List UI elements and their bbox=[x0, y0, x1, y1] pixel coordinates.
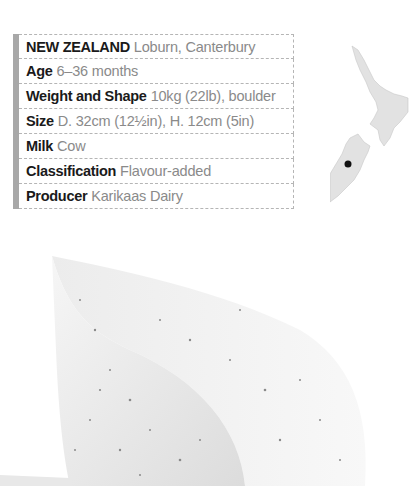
row-value: Flavour-added bbox=[120, 163, 211, 179]
profile-row-size: SizeD. 32cm (12½in), H. 12cm (5in) bbox=[19, 109, 294, 134]
row-label: Milk bbox=[26, 138, 53, 154]
profile-row-producer: ProducerKarikaas Dairy bbox=[19, 184, 294, 209]
row-label: Producer bbox=[26, 188, 87, 204]
row-label: Age bbox=[26, 63, 53, 79]
row-value: Karikaas Dairy bbox=[91, 188, 182, 204]
row-value: Loburn, Canterbury bbox=[134, 39, 255, 55]
profile-row-origin: NEW ZEALANDLoburn, Canterbury bbox=[19, 34, 294, 59]
row-label: Size bbox=[26, 113, 54, 129]
cheese-profile-table: NEW ZEALANDLoburn, Canterbury Age6–36 mo… bbox=[13, 34, 294, 209]
profile-row-classification: ClassificationFlavour-added bbox=[19, 159, 294, 184]
row-label: Classification bbox=[26, 163, 116, 179]
profile-row-weight: Weight and Shape10kg (22lb), boulder bbox=[19, 84, 294, 109]
location-marker-icon bbox=[345, 161, 352, 168]
row-value: 10kg (22lb), boulder bbox=[151, 88, 276, 104]
row-value: Cow bbox=[57, 138, 85, 154]
profile-row-milk: MilkCow bbox=[19, 134, 294, 159]
profile-row-age: Age6–36 months bbox=[19, 59, 294, 84]
row-value: D. 32cm (12½in), H. 12cm (5in) bbox=[58, 113, 254, 129]
new-zealand-map bbox=[330, 34, 410, 204]
cheese-photo bbox=[0, 250, 410, 486]
row-label: NEW ZEALAND bbox=[26, 39, 130, 55]
row-value: 6–36 months bbox=[57, 63, 139, 79]
row-label: Weight and Shape bbox=[26, 88, 147, 104]
